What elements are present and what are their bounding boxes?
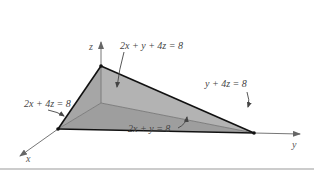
leader-right-edge <box>247 92 249 107</box>
vertex-left <box>56 127 60 131</box>
leader-left-edge <box>48 110 64 116</box>
label-left-edge: 2x + 4z = 8 <box>24 98 71 109</box>
z-axis-label: z <box>88 41 93 52</box>
y-axis <box>254 133 300 134</box>
label-right-edge: y + 4z = 8 <box>204 78 247 89</box>
y-axis-label: y <box>291 139 297 150</box>
label-bottom-edge: 2x + y = 8 <box>128 123 170 134</box>
vertex-top <box>99 64 103 68</box>
vertex-right <box>252 131 256 135</box>
tetrahedron-diagram: z y x 2x + y + 4z = 8 y + 4z = 8 2x + 4z… <box>0 0 314 173</box>
x-axis <box>20 129 58 156</box>
x-axis-label: x <box>25 153 31 164</box>
label-top-face: 2x + y + 4z = 8 <box>120 40 183 51</box>
